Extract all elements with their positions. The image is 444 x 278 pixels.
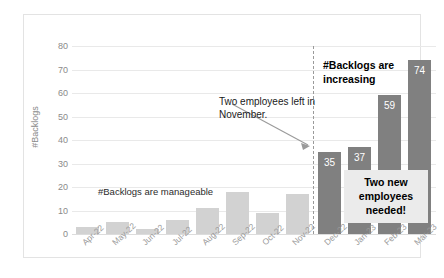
y-axis-tick: 80 [40,42,68,51]
y-axis-tick: 70 [40,66,68,75]
chart-container: #Backlogs 80 70 60 50 40 30 20 10 0 [23,14,421,258]
y-axis-tick: 30 [40,160,68,169]
annotation-two-new-employees: Two new employees needed! [344,170,428,223]
annotation-backlogs-increasing: #Backlogs are increasing [323,58,427,86]
y-axis-ticks: 80 70 60 50 40 30 20 10 0 [34,46,68,234]
period-divider-line [313,46,314,234]
x-axis-labels: Apr-22 May-22 Jun-22 Jul-22 Aug-22 Sep-2… [72,236,436,274]
y-axis-tick: 60 [40,89,68,98]
y-axis-tick: 40 [40,136,68,145]
bar-value-label: 59 [378,100,401,111]
y-axis-tick: 50 [40,113,68,122]
gridline [72,93,436,94]
bar-value-label: 37 [348,152,371,163]
bar-dec-22[interactable]: 35 [318,152,341,234]
annotation-backlogs-manageable: #Backlogs are manageable [98,185,213,198]
y-axis-tick: 10 [40,207,68,216]
annotation-employees-left: Two employees left in November. [219,95,349,121]
bar-value-label: 35 [318,157,341,168]
y-axis-tick: 20 [40,183,68,192]
plot-area: 35 37 59 74 #Backlogs are manageable Two… [72,46,436,234]
gridline [72,46,436,47]
y-axis-tick: 0 [40,230,68,239]
